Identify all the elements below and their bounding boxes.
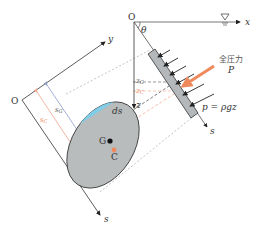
origin-top-label: O: [128, 12, 135, 22]
z-axis-label: z: [135, 100, 141, 110]
centroid-point: [107, 138, 112, 143]
angle-label: θ: [141, 25, 147, 35]
y-axis: [22, 42, 105, 100]
hydrostatic-diagram: O y s sG sC ds G C O x z s θ: [0, 0, 268, 234]
total-force-label: 全圧力: [219, 54, 243, 64]
total-force-arrow: [183, 66, 214, 86]
x-axis-label: x: [245, 17, 250, 27]
sC-label: sC: [40, 116, 48, 124]
pressure-formula: p = ρgz: [202, 102, 237, 112]
inclined-plate: [148, 49, 198, 118]
diagram-canvas: O y s sG sC ds G C O x z s θ: [0, 0, 268, 234]
angle-arc: [138, 22, 140, 28]
centroid-label: G: [99, 136, 106, 146]
s-axis-left-label: s: [104, 214, 109, 224]
zG-label: zG: [135, 77, 144, 85]
pressure-center-label: C: [111, 152, 118, 162]
origin-left-label: O: [11, 96, 18, 106]
y-axis-label: y: [107, 34, 114, 44]
submerged-surface: ds G C: [52, 78, 154, 201]
sG-label: sG: [55, 106, 63, 114]
total-force-symbol: P: [227, 65, 235, 75]
zC-label: zC: [135, 87, 144, 95]
free-surface-icon: [221, 14, 229, 25]
strip-label: ds: [112, 106, 123, 116]
s-axis-top-label: s: [210, 126, 215, 136]
